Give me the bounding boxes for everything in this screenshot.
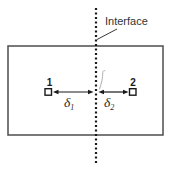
delta1-arrow — [53, 90, 94, 94]
point2-square — [130, 89, 137, 96]
delta2-subscript: 2 — [110, 103, 114, 112]
interface-leader-line — [97, 29, 117, 40]
delta2-arrow — [99, 90, 129, 94]
delta1-subscript: 1 — [70, 103, 74, 112]
point1-square — [45, 89, 52, 96]
medium-boundary-box — [8, 46, 163, 135]
point2-label: 2 — [130, 77, 136, 88]
delta2-label: δ2 — [104, 95, 114, 112]
faint-curve-mark-icon — [100, 71, 106, 89]
delta1-label: δ1 — [64, 95, 74, 112]
interface-label: Interface — [105, 15, 148, 27]
interface-diagram: Interface 1 2 δ1 δ2 — [0, 0, 170, 174]
diagram-canvas: Interface 1 2 δ1 δ2 — [0, 0, 170, 174]
point1-label: 1 — [47, 77, 53, 88]
